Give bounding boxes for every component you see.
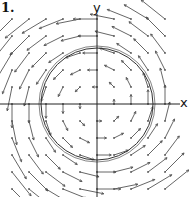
vector-field-plot — [0, 0, 189, 197]
vector-field-arrows — [0, 0, 189, 197]
figure-number: 1. — [1, 0, 15, 15]
y-axis-label: y — [93, 0, 101, 15]
x-axis-label: x — [180, 95, 188, 110]
